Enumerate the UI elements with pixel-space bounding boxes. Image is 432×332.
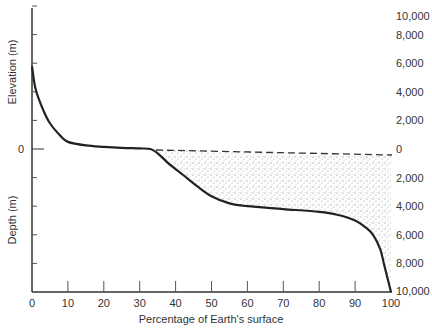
right-tick-label: 10,000 xyxy=(396,10,430,22)
right-tick-label: 8,000 xyxy=(396,29,424,41)
right-tick-label: 2,000 xyxy=(396,114,424,126)
x-tick-label: 40 xyxy=(169,297,181,309)
x-axis-ticks: 0102030405060708090100 xyxy=(29,281,400,309)
right-tick-label: 6,000 xyxy=(396,57,424,69)
x-axis-label: Percentage of Earth's surface xyxy=(139,313,284,325)
x-tick-label: 0 xyxy=(29,297,35,309)
x-tick-label: 50 xyxy=(205,297,217,309)
y-axis-ticks xyxy=(32,6,44,263)
right-tick-label: 0 xyxy=(396,143,402,155)
x-tick-label: 70 xyxy=(277,297,289,309)
depth-axis-label: Depth (m) xyxy=(6,196,18,245)
right-tick-label: 4,000 xyxy=(396,86,424,98)
elevation-axis-label: Elevation (m) xyxy=(6,40,18,105)
x-tick-label: 10 xyxy=(62,297,74,309)
x-tick-label: 100 xyxy=(382,297,400,309)
right-tick-label: 4,000 xyxy=(396,200,424,212)
right-axis-labels: 10,0008,0006,0004,0002,00002,0004,0006,0… xyxy=(396,10,430,297)
right-tick-label: 2,000 xyxy=(396,172,424,184)
y-zero-label: 0 xyxy=(18,143,24,155)
x-tick-label: 30 xyxy=(134,297,146,309)
right-tick-label: 8,000 xyxy=(396,257,424,269)
x-tick-label: 20 xyxy=(98,297,110,309)
hypsometric-chart: 0102030405060708090100 10,0008,0006,0004… xyxy=(0,0,432,332)
x-tick-label: 60 xyxy=(241,297,253,309)
right-tick-label: 6,000 xyxy=(396,229,424,241)
x-tick-label: 80 xyxy=(313,297,325,309)
x-tick-label: 90 xyxy=(349,297,361,309)
right-tick-label: 10,000 xyxy=(396,285,430,297)
